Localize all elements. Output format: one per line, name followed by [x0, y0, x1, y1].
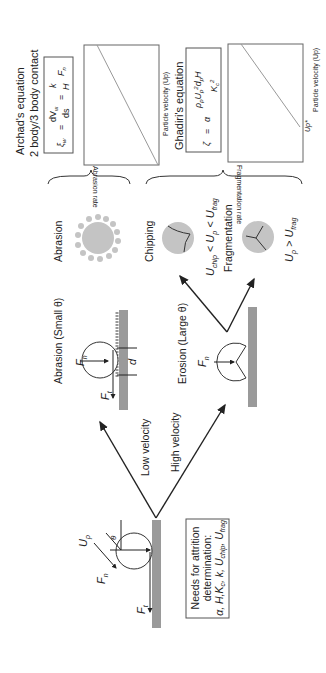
frag-threshold-label: Up*: [304, 120, 312, 132]
erosion-fn-label: Fn: [196, 356, 210, 367]
fragmentation-particle-icon: [242, 221, 274, 253]
svg-text:ds: ds: [61, 108, 71, 118]
outcome-fragmentation-label: Fragmentation: [222, 204, 234, 272]
abrasion-rate-ylabel: Abrasion rate: [92, 166, 99, 208]
fragmentation-brace: [146, 170, 302, 184]
svg-text:H: H: [61, 83, 71, 90]
label-theta: θ: [109, 535, 118, 540]
abrasion-fn-label: Fn: [74, 355, 88, 366]
high-velocity-label: High velocity: [169, 412, 181, 472]
needs-line3: α, H,Kc, k, Uchip, Ufrag: [213, 520, 227, 616]
fragmentation-rate-ylabel: Fragmentation rate: [235, 165, 243, 224]
erosion-large-theta-title: Erosion (Large θ): [176, 303, 188, 384]
svg-text:=: =: [56, 95, 66, 100]
outcome-chipping-label: Chipping: [143, 220, 155, 262]
abrasion-chart-xlabel: Particle velocity (Up): [162, 72, 170, 136]
attrition-diagram: Up θ Fn Ft Needs for attrition determina…: [0, 0, 326, 673]
arrow-high-velocity: [156, 405, 225, 518]
svg-text:=: =: [202, 129, 212, 134]
chipping-condition: Uchip < Up < Ufrag: [204, 198, 219, 276]
svg-text:ρpUp2dpH: ρpUp2dpH: [193, 71, 204, 109]
abrasion-ft-label: Ft: [99, 390, 113, 400]
svg-text:α: α: [202, 116, 212, 122]
frag-chart-xlabel: Particle velocity (Up): [312, 48, 320, 112]
fragmentation-rate-chart: Fragmentation rate Particle velocity (Up…: [228, 44, 320, 224]
d-label: d: [126, 358, 138, 365]
svg-text:k: k: [48, 83, 58, 88]
abrasion-small-theta-title: Abrasion (Small θ): [52, 298, 64, 384]
label-up: Up: [77, 535, 92, 547]
svg-text:=: =: [56, 125, 66, 130]
abrasion-rate-chart: Abrasion rate Particle velocity (Up): [84, 45, 170, 208]
ghadiri-title: Ghadiri's equation: [173, 62, 185, 150]
needs-line1: Needs for attrition: [189, 526, 201, 609]
surface-erosion: [248, 307, 257, 407]
outcome-abrasion-label: Abrasion: [52, 220, 64, 262]
fragmentation-condition: Up > Ufrag: [283, 217, 298, 262]
label-ft: Ft: [135, 604, 149, 614]
needs-line2: determination:: [201, 535, 213, 602]
label-fn: Fn: [95, 573, 109, 584]
abrasion-particle-icon: [75, 214, 121, 262]
velocity-arrow: [94, 543, 116, 568]
low-velocity-label: Low velocity: [139, 418, 151, 476]
archad-subtitle: 2 body/3 body contact: [28, 49, 40, 157]
chipping-particle-icon: [162, 222, 194, 254]
archad-title: Archad's equation: [14, 67, 26, 155]
surface-initial: [152, 520, 161, 628]
abrasion-brace: [48, 170, 130, 184]
